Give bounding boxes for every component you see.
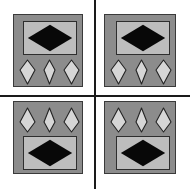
black-diamond-icon	[117, 137, 169, 169]
kite-icon	[155, 59, 172, 85]
kite-icon	[43, 107, 56, 133]
kite-row	[110, 107, 172, 133]
panel-top-left-content	[14, 15, 82, 86]
black-diamond-icon	[24, 137, 76, 169]
panel-bottom-right-content	[105, 102, 175, 173]
kite-icon	[63, 59, 80, 85]
panel-top-right	[104, 14, 176, 87]
kite-icon	[135, 107, 148, 133]
panel-bottom-left	[13, 101, 83, 174]
kite-icon	[110, 59, 127, 85]
kite-row	[110, 59, 172, 85]
kite-icon	[19, 107, 36, 133]
diamond-frame	[23, 136, 77, 170]
kite-row	[19, 107, 80, 133]
kite-icon	[63, 107, 80, 133]
diamond-frame	[116, 136, 170, 170]
kite-icon	[155, 107, 172, 133]
panel-top-right-content	[105, 15, 175, 86]
horizontal-divider	[0, 95, 190, 97]
panel-bottom-right	[104, 101, 176, 174]
kite-icon	[110, 107, 127, 133]
panel-top-left	[13, 14, 83, 87]
panel-bottom-left-content	[14, 102, 82, 173]
black-diamond-icon	[24, 22, 76, 54]
kite-icon	[43, 59, 56, 85]
diamond-frame	[116, 21, 170, 55]
black-diamond-icon	[117, 22, 169, 54]
figure-root	[0, 0, 190, 189]
kite-icon	[19, 59, 36, 85]
diamond-frame	[23, 21, 77, 55]
kite-row	[19, 59, 80, 85]
kite-icon	[135, 59, 148, 85]
